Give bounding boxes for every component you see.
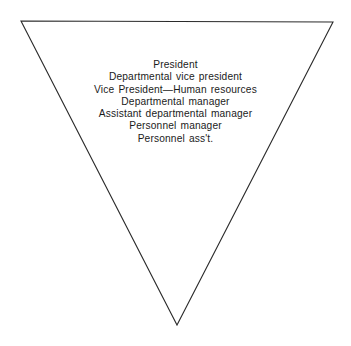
hierarchy-level-personnel-assistant: Personnel ass't. xyxy=(0,133,351,145)
hierarchy-level-personnel-manager: Personnel manager xyxy=(0,120,351,132)
hierarchy-level-departmental-vice-president: Departmental vice president xyxy=(0,71,351,83)
hierarchy-level-departmental-manager: Departmental manager xyxy=(0,96,351,108)
inverted-pyramid-figure: President Departmental vice president Vi… xyxy=(0,0,351,346)
inverted-triangle-outline xyxy=(0,0,351,346)
hierarchy-level-president: President xyxy=(0,59,351,71)
hierarchy-level-vice-president-human-resources: Vice President—Human resources xyxy=(0,84,351,96)
hierarchy-level-list: President Departmental vice president Vi… xyxy=(0,59,351,145)
hierarchy-level-assistant-departmental-manager: Assistant departmental manager xyxy=(0,108,351,120)
